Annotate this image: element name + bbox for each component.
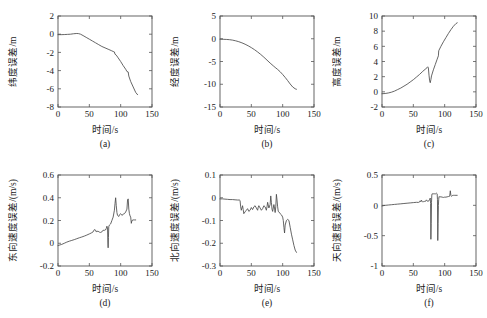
panel-letter: (f) (424, 298, 434, 309)
y-tick-label: 6 (374, 42, 379, 52)
y-axis-title: 天向速度误差/(m/s) (331, 179, 343, 262)
y-tick-label: -0.3 (202, 261, 217, 271)
chart-panel-b: 050100150-15-10-505经度误差/m时间/s(b) (162, 0, 324, 159)
x-tick-label: 50 (247, 109, 257, 119)
y-tick-label: 2 (50, 11, 55, 21)
x-tick-label: 150 (307, 268, 321, 278)
x-axis-title: 时间/s (254, 124, 281, 135)
y-tick-label: 0 (212, 34, 217, 44)
x-tick-label: 50 (85, 268, 95, 278)
y-tick-label: 0 (50, 29, 55, 39)
y-tick-label: -5 (209, 57, 217, 67)
x-tick-label: 150 (307, 109, 321, 119)
data-curve (220, 39, 296, 89)
y-tick-label: -0.2 (202, 238, 216, 248)
y-tick-label: 0.5 (367, 170, 379, 180)
plot-frame (382, 175, 476, 266)
x-tick-label: 100 (438, 268, 452, 278)
y-tick-label: 0.2 (43, 216, 54, 226)
x-tick-label: 0 (380, 268, 385, 278)
y-tick-label: 5 (212, 11, 217, 21)
panel-letter: (b) (261, 139, 272, 150)
x-axis-title: 时间/s (416, 124, 443, 135)
y-axis-title: 东向速度误差/(m/s) (7, 179, 19, 262)
panel-letter: (e) (262, 298, 273, 309)
x-tick-label: 150 (469, 109, 483, 119)
x-tick-label: 100 (114, 268, 128, 278)
y-tick-label: 0 (212, 193, 217, 203)
x-tick-label: 150 (145, 109, 159, 119)
data-curve (382, 23, 457, 94)
y-tick-label: -4 (47, 66, 55, 76)
x-tick-label: 0 (218, 268, 223, 278)
y-axis-title: 纬度误差/m (7, 36, 18, 87)
x-tick-label: 100 (276, 268, 290, 278)
x-axis-title: 时间/s (92, 283, 119, 294)
x-tick-label: 100 (114, 109, 128, 119)
plot-frame (58, 16, 152, 107)
figure-container: 050100150-8-6-4-202纬度误差/m时间/s(a)05010015… (0, 0, 487, 318)
y-tick-label: -2 (371, 102, 379, 112)
x-axis-title: 时间/s (92, 124, 119, 135)
y-tick-label: 0.6 (43, 170, 55, 180)
y-tick-label: -0.5 (364, 231, 379, 241)
plot-frame (220, 16, 314, 107)
x-tick-label: 50 (409, 109, 419, 119)
x-tick-label: 100 (276, 109, 290, 119)
plot-frame (58, 175, 152, 266)
x-axis-title: 时间/s (416, 283, 443, 294)
chart-panel-d: 050100150-0.200.20.40.6东向速度误差/(m/s)时间/s(… (0, 159, 162, 318)
data-curve (220, 194, 296, 252)
data-curve (58, 198, 136, 248)
y-tick-label: 0 (50, 238, 55, 248)
y-axis-title: 高度误差/m (331, 36, 342, 87)
x-tick-label: 150 (145, 268, 159, 278)
y-tick-label: 0.4 (43, 193, 55, 203)
x-tick-label: 100 (438, 109, 452, 119)
data-curve (382, 191, 457, 241)
y-tick-label: -6 (47, 84, 55, 94)
y-tick-label: 0 (374, 87, 379, 97)
x-tick-label: 0 (218, 109, 223, 119)
y-tick-label: 10 (369, 11, 379, 21)
x-tick-label: 50 (247, 268, 257, 278)
chart-panel-c: 050100150-20246810高度误差/m时间/s(c) (324, 0, 486, 159)
plot-frame (382, 16, 476, 107)
data-curve (58, 33, 138, 94)
y-axis-title: 经度误差/m (169, 36, 180, 87)
panel-letter: (d) (99, 298, 110, 309)
x-tick-label: 0 (56, 109, 61, 119)
x-tick-label: 0 (56, 268, 61, 278)
x-tick-label: 150 (469, 268, 483, 278)
y-tick-label: -15 (204, 102, 216, 112)
y-tick-label: 2 (374, 72, 379, 82)
y-tick-label: 0.1 (205, 170, 216, 180)
y-tick-label: -0.1 (202, 216, 216, 226)
x-tick-label: 0 (380, 109, 385, 119)
y-axis-title: 北向速度误差/(m/s) (169, 179, 181, 262)
x-tick-label: 50 (85, 109, 95, 119)
y-tick-label: 8 (374, 26, 379, 36)
y-tick-label: 4 (374, 57, 379, 67)
chart-panel-a: 050100150-8-6-4-202纬度误差/m时间/s(a) (0, 0, 162, 159)
plot-frame (220, 175, 314, 266)
y-tick-label: -10 (204, 79, 216, 89)
y-tick-label: -2 (47, 48, 55, 58)
panel-letter: (c) (424, 139, 435, 150)
y-tick-label: -8 (47, 102, 55, 112)
chart-panel-e: 050100150-0.3-0.2-0.100.1北向速度误差/(m/s)时间/… (162, 159, 324, 318)
y-tick-label: -1 (371, 261, 379, 271)
panel-letter: (a) (100, 139, 111, 150)
x-axis-title: 时间/s (254, 283, 281, 294)
x-tick-label: 50 (409, 268, 419, 278)
y-tick-label: 0 (374, 201, 379, 211)
y-tick-label: -0.2 (40, 261, 54, 271)
chart-panel-f: 050100150-1-0.500.5天向速度误差/(m/s)时间/s(f) (324, 159, 486, 318)
